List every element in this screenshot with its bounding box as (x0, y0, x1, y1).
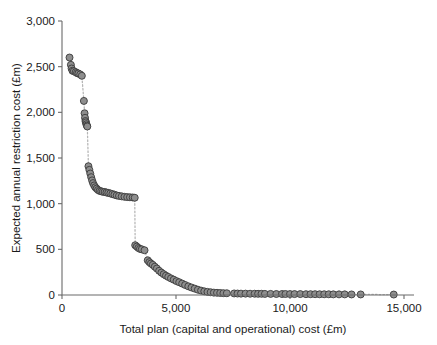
x-tick-label: 15,000 (386, 302, 421, 314)
y-tick-label: 500 (36, 243, 55, 255)
axis-lines (62, 21, 414, 295)
data-point (80, 97, 87, 104)
y-tick-label: 2,000 (26, 106, 55, 118)
y-tick-label: 3,000 (26, 15, 55, 27)
x-tick-label: 10,000 (272, 302, 307, 314)
series-connector-0 (70, 58, 394, 295)
plot-canvas: 05001,0001,5002,0002,5003,00005,00010,00… (0, 0, 437, 345)
y-tick-label: 1,000 (26, 198, 55, 210)
data-point (141, 247, 148, 254)
series-layer (66, 54, 397, 298)
x-tick-label: 0 (59, 302, 65, 314)
y-axis-title: Expected annual restriction cost (£m) (10, 63, 22, 253)
y-tick-label: 1,500 (26, 152, 55, 164)
axes-layer (58, 21, 414, 299)
data-point (223, 290, 230, 297)
data-point (78, 72, 85, 79)
x-axis-title: Total plan (capital and operational) cos… (120, 323, 347, 335)
data-point (341, 291, 348, 298)
x-tick-label: 5,000 (162, 302, 191, 314)
data-point (131, 194, 138, 201)
y-tick-label: 0 (49, 289, 55, 301)
data-point (84, 123, 91, 130)
data-point (66, 54, 73, 61)
scatter-chart: 05001,0001,5002,0002,5003,00005,00010,00… (0, 0, 437, 345)
y-tick-label: 2,500 (26, 61, 55, 73)
